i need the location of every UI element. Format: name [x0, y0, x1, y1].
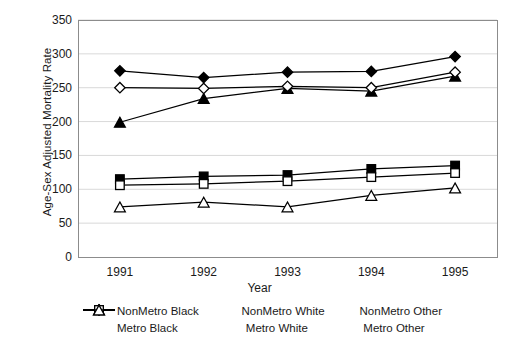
data-point-marker [283, 177, 292, 186]
chart-legend: NonMetro BlackNonMetro WhiteNonMetro Oth… [82, 303, 442, 337]
x-axis-tick-label: 1995 [425, 266, 485, 278]
triangle-filled-icon [325, 305, 359, 319]
data-point-marker [199, 83, 209, 93]
x-axis-tick-label: 1993 [258, 266, 318, 278]
x-axis-tick-label: 1994 [341, 266, 401, 278]
legend-label: Metro Black [116, 323, 178, 335]
legend-label: Metro White [245, 323, 308, 335]
plot-canvas [0, 0, 519, 348]
legend-item-metro-white[interactable]: Metro White [211, 320, 328, 337]
data-point-marker [115, 83, 125, 93]
data-point-marker [367, 173, 376, 182]
x-axis-tick-label: 1992 [174, 266, 234, 278]
series-nonmetro-black [115, 51, 461, 82]
legend-item-metro-other[interactable]: Metro Other [328, 320, 442, 337]
data-point-marker [116, 181, 125, 190]
gridlines [78, 20, 497, 223]
data-point-marker [451, 169, 460, 178]
data-point-marker [115, 117, 126, 127]
legend-label: NonMetro Other [359, 306, 442, 318]
data-point-marker [199, 72, 209, 82]
x-axis-tick-label: 1991 [90, 266, 150, 278]
plot-border [79, 21, 498, 258]
data-point-marker [366, 66, 376, 76]
data-point-marker [115, 66, 125, 76]
data-point-marker [367, 165, 376, 174]
diamond-open-icon [82, 322, 116, 336]
square-open-icon [211, 322, 245, 336]
square-filled-icon [206, 305, 240, 319]
legend-item-metro-black[interactable]: Metro Black [82, 320, 211, 337]
legend-row: NonMetro BlackNonMetro WhiteNonMetro Oth… [82, 303, 442, 320]
legend-row: Metro BlackMetro WhiteMetro Other [82, 320, 442, 337]
data-point-marker [282, 67, 292, 77]
data-point-marker [450, 51, 460, 61]
data-point-marker [450, 67, 460, 77]
legend-label: NonMetro Black [116, 306, 199, 318]
series-nonmetro-other [115, 71, 461, 127]
legend-item-nonmetro-other[interactable]: NonMetro Other [325, 303, 442, 320]
legend-label: NonMetro White [240, 306, 324, 318]
x-axis-title: Year [0, 281, 519, 295]
triangle-open-icon [328, 322, 362, 336]
chart-figure: Age-Sex Adjusted Mortality Rate 35030025… [0, 0, 519, 348]
series-metro-other [115, 183, 461, 212]
legend-label: Metro Other [362, 323, 424, 335]
data-point-marker [199, 180, 208, 189]
legend-item-nonmetro-white[interactable]: NonMetro White [206, 303, 324, 320]
